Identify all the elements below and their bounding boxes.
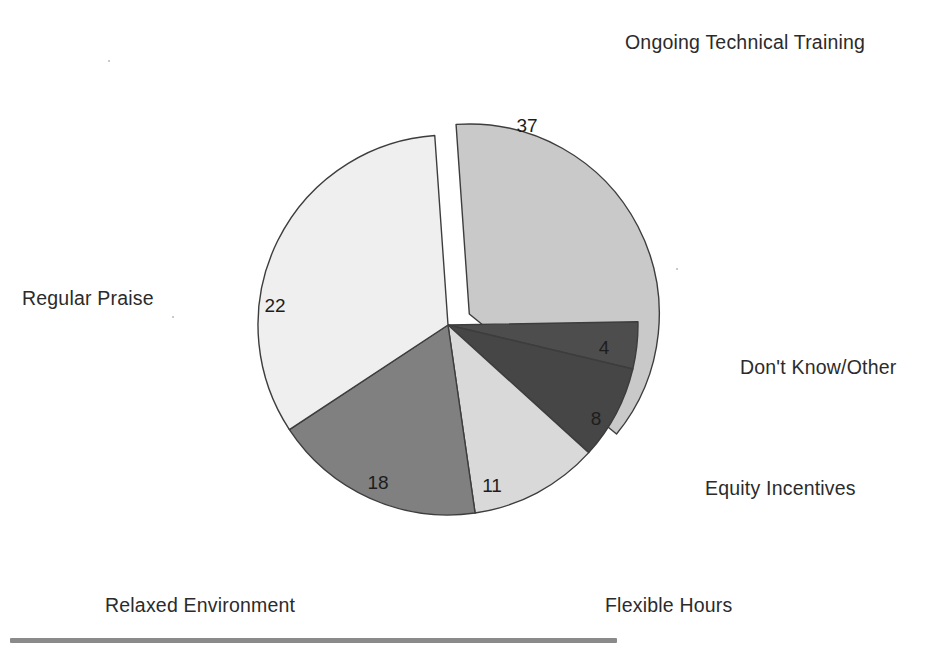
scan-speck (172, 316, 174, 318)
pie-slice-value: 22 (264, 295, 285, 316)
pie-slice-value: 37 (516, 115, 537, 136)
slice-label-equity-incentives: Equity Incentives (705, 479, 856, 499)
scan-speck (108, 60, 110, 62)
pie-slice-value: 11 (482, 475, 502, 496)
pie-slice-value: 18 (367, 472, 388, 493)
baseline-rule (10, 638, 617, 643)
pie-slice-value: 4 (599, 337, 610, 358)
chart-canvas: 3748111822 Ongoing Technical Training Do… (0, 0, 940, 652)
pie-slice-layer (258, 124, 659, 515)
slice-label-flexible-hours: Flexible Hours (605, 596, 732, 616)
scan-speck (676, 268, 678, 270)
slice-label-relaxed-environment: Relaxed Environment (105, 596, 295, 616)
slice-label-ongoing-technical-training: Ongoing Technical Training (625, 33, 865, 53)
slice-label-regular-praise: Regular Praise (22, 289, 154, 309)
slice-label-dont-know-other: Don't Know/Other (740, 358, 897, 378)
pie-chart-svg: 3748111822 (0, 0, 940, 652)
pie-slice-value: 8 (591, 408, 602, 429)
